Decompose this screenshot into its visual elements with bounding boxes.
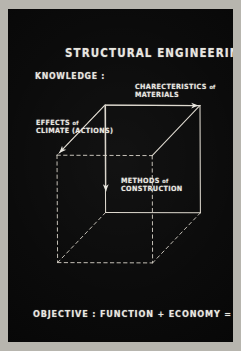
page-title: STRUCTURAL ENGINEERING [65,47,233,61]
page-frame: STRUCTURAL ENGINEERING KNOWLEDGE : CHARE… [0,0,241,351]
objective-equation: OBJECTIVE : FUNCTION + ECONOMY = VALUE [33,309,233,320]
axis-label-construction: METHODS of CONSTRUCTION [121,177,183,194]
axis-label-materials: CHARECTERISTICS of MATERIALS [135,83,215,100]
axis-label-climate-line2: CLIMATE (ACTIONS) [36,126,113,135]
axis-label-materials-line2: MATERIALS [135,90,179,99]
axis-label-materials-connector: of [209,84,215,90]
chalkboard-panel: STRUCTURAL ENGINEERING KNOWLEDGE : CHARE… [8,9,233,342]
axis-label-construction-line2: CONSTRUCTION [121,184,183,193]
axis-label-climate: EFFECTS of CLIMATE (ACTIONS) [36,119,113,136]
knowledge-label: KNOWLEDGE : [35,71,105,81]
